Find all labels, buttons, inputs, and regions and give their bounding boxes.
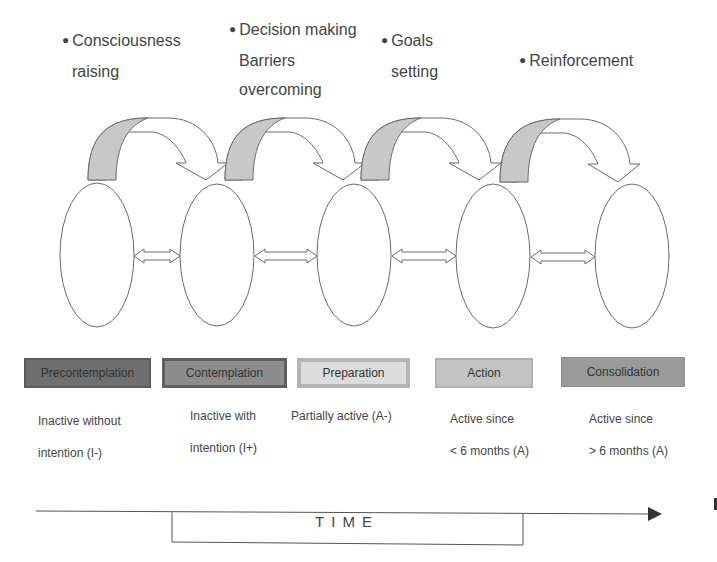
stage-label: Precontemplation <box>41 366 134 380</box>
process-text: raising <box>62 57 181 86</box>
process-text: Barriers <box>229 46 357 75</box>
stage-consolidation: Consolidation <box>561 357 685 387</box>
double-arrow-2 <box>255 249 317 263</box>
description-line: > 6 months (A) <box>589 435 668 467</box>
process-reinforcement: ●Reinforcement <box>519 46 633 77</box>
process-text: setting <box>381 57 438 86</box>
double-arrow-1 <box>134 249 180 263</box>
stage-ellipse-4 <box>456 184 530 328</box>
stage-description-precontemplation: Inactive without intention (I-) <box>38 405 121 469</box>
stage-label: Action <box>467 366 500 380</box>
process-consciousness-raising: ●Consciousness raising <box>62 26 181 86</box>
process-decision-making: ●Decision making Barriers overcoming <box>229 15 357 104</box>
description-line: < 6 months (A) <box>450 435 529 467</box>
stage-description-action: Active since < 6 months (A) <box>450 403 529 467</box>
stage-label: Consolidation <box>587 365 660 379</box>
process-text: Goals <box>391 32 433 49</box>
description-line: intention (I-) <box>38 437 121 469</box>
transition-arrow-4 <box>500 119 640 182</box>
description-line: Partially active (A-) <box>291 400 392 432</box>
process-text: Reinforcement <box>529 52 633 69</box>
stage-precontemplation: Precontemplation <box>24 358 151 388</box>
description-line: Active since <box>589 403 668 435</box>
transition-arrow-2 <box>225 118 365 180</box>
transition-arrow-1 <box>88 118 228 180</box>
description-line: Inactive without <box>38 405 121 437</box>
stage-description-consolidation: Active since > 6 months (A) <box>589 403 668 467</box>
double-arrow-4 <box>531 250 595 264</box>
description-line: Active since <box>450 403 529 435</box>
bullet-icon: ● <box>229 22 236 36</box>
time-label: TIME <box>172 513 522 530</box>
stage-ellipse-1 <box>60 183 134 327</box>
bullet-icon: ● <box>519 53 526 67</box>
stage-description-preparation: Partially active (A-) <box>291 400 392 432</box>
stage-label: Contemplation <box>186 366 263 380</box>
bullet-icon: ● <box>381 33 388 47</box>
description-line: Inactive with <box>190 400 257 432</box>
process-text: overcoming <box>229 75 357 104</box>
stage-preparation: Preparation <box>297 358 410 388</box>
stage-ellipse-3 <box>317 184 391 326</box>
stage-description-contemplation: Inactive with intention (I+) <box>190 400 257 464</box>
stage-ellipse-2 <box>180 184 254 326</box>
timeline-arrowhead-icon <box>648 507 662 521</box>
process-text: Decision making <box>239 21 356 38</box>
stage-contemplation: Contemplation <box>162 358 287 388</box>
stage-action: Action <box>435 358 533 388</box>
description-line: intention (I+) <box>190 432 257 464</box>
bullet-icon: ● <box>62 33 69 47</box>
stage-label: Preparation <box>322 366 384 380</box>
process-goals-setting: ●Goals setting <box>381 26 438 86</box>
transition-arrow-3 <box>361 118 501 180</box>
process-text: Consciousness <box>72 32 181 49</box>
stage-ellipse-5 <box>595 184 669 328</box>
double-arrow-3 <box>392 249 456 263</box>
